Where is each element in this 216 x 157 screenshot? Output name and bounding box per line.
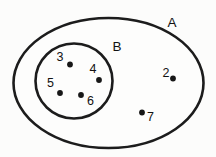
venn-diagram-svg: A B 3 4 5 6 2 7 bbox=[0, 0, 216, 157]
element-label-4: 4 bbox=[90, 62, 97, 76]
element-dot-3 bbox=[67, 62, 73, 68]
element-dot-7 bbox=[139, 110, 145, 116]
element-label-5: 5 bbox=[47, 76, 54, 90]
element-label-7: 7 bbox=[147, 110, 154, 124]
set-b-label: B bbox=[112, 39, 121, 54]
element-dot-5 bbox=[57, 90, 63, 96]
set-a-label: A bbox=[167, 15, 176, 30]
element-dot-2 bbox=[170, 76, 176, 82]
element-label-2: 2 bbox=[163, 66, 170, 80]
element-label-6: 6 bbox=[87, 94, 94, 108]
element-dot-4 bbox=[96, 77, 102, 83]
element-label-3: 3 bbox=[57, 50, 64, 64]
venn-diagram-canvas: A B 3 4 5 6 2 7 bbox=[0, 0, 216, 157]
element-dot-6 bbox=[78, 92, 84, 98]
